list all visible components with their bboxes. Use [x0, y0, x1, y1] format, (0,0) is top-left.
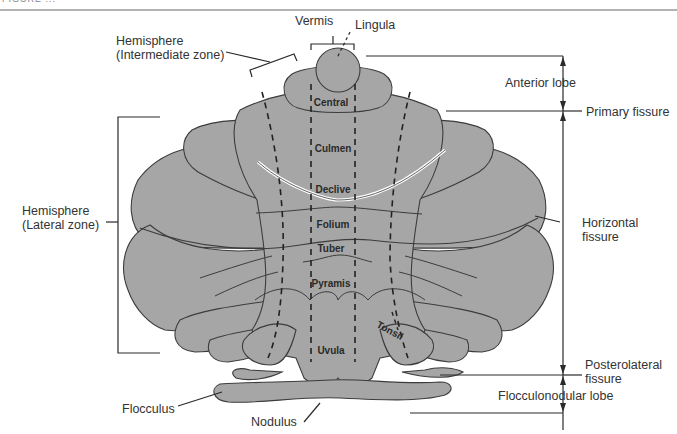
flocculonodular-lobe-shape [214, 380, 451, 403]
intermediate-zone-bracket [226, 52, 297, 77]
label-uvula: Uvula [317, 345, 344, 356]
label-hemisphere-lateral: Hemisphere [22, 204, 89, 218]
label-anterior-lobe: Anterior lobe [505, 76, 576, 90]
label-folium: Folium [317, 219, 350, 230]
label-posterolateral: Posterolateral [585, 358, 662, 372]
cerebellum-diagram: FIGURE ... [0, 0, 677, 434]
label-horizontal-fissure: fissure [582, 230, 619, 244]
label-intermediate-zone: (Intermediate zone) [116, 48, 224, 62]
label-flocculus: Flocculus [122, 402, 175, 416]
label-primary-fissure: Primary fissure [586, 105, 669, 119]
right-flocculus-tail [402, 368, 463, 377]
label-nodulus: Nodulus [251, 415, 297, 429]
label-hemisphere-intermediate: Hemisphere [116, 34, 183, 48]
lingula-lobule [316, 48, 360, 92]
diagram-svg [0, 0, 677, 434]
label-central: Central [314, 97, 348, 108]
label-tuber: Tuber [317, 243, 344, 254]
label-pyramis: Pyramis [312, 278, 351, 289]
label-vermis: Vermis [295, 14, 333, 28]
label-lingula: Lingula [355, 18, 395, 32]
label-declive: Declive [315, 184, 350, 195]
label-posterolateral-fissure: fissure [585, 372, 622, 386]
left-flocculus-tail [233, 369, 282, 380]
label-lateral-zone: (Lateral zone) [22, 218, 99, 232]
label-flocculonodular-lobe: Flocculonodular lobe [498, 389, 613, 403]
nodulus-leader [304, 403, 320, 422]
label-horizontal: Horizontal [582, 216, 638, 230]
label-culmen: Culmen [315, 143, 352, 154]
flocculus-leader [178, 392, 222, 406]
